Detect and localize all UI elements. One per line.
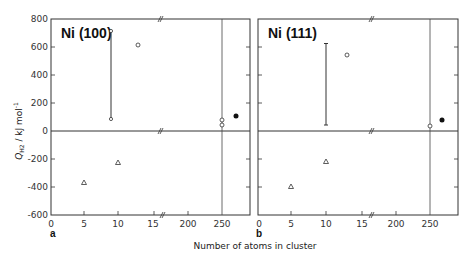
panel-a-data <box>82 29 239 184</box>
svg-text:200: 200 <box>31 98 48 108</box>
panel-b-data <box>289 44 445 189</box>
svg-text:5: 5 <box>288 219 294 229</box>
panel-a-letter: a <box>50 228 56 239</box>
svg-text:200: 200 <box>387 219 404 229</box>
chart-canvas: 800 600 400 200 0 -200 -400 -600 0 5 10 … <box>0 0 472 259</box>
svg-text:0: 0 <box>42 126 48 136</box>
panel-a-y-tick-labels: 800 600 400 200 0 -200 -400 -600 <box>28 14 49 220</box>
panel-a-title: Ni (100) <box>61 25 112 41</box>
x-axis-label: Number of atoms in cluster <box>193 241 316 251</box>
panel-a-x-tick-labels: 0 5 10 15 200 250 <box>48 219 231 229</box>
panel-a-frame <box>51 19 250 215</box>
panel-a-y-ticks <box>51 47 250 187</box>
svg-text:-400: -400 <box>28 182 49 192</box>
svg-text:-600: -600 <box>28 210 49 220</box>
open-circle-marker <box>136 43 140 47</box>
triangle-marker <box>82 180 87 185</box>
svg-text:10: 10 <box>320 219 332 229</box>
svg-text:15: 15 <box>147 219 158 229</box>
svg-text:5: 5 <box>81 219 87 229</box>
range-bar-top-marker <box>109 29 112 32</box>
triangle-marker <box>324 159 329 164</box>
panel-a-x-ticks <box>84 211 188 215</box>
svg-text:600: 600 <box>31 42 48 52</box>
panel-b-letter: b <box>256 228 262 239</box>
svg-text:200: 200 <box>179 219 196 229</box>
svg-text:-200: -200 <box>28 154 49 164</box>
panel-b: 0 5 10 15 200 250 Ni (111) b <box>256 16 458 239</box>
filled-circle-marker <box>234 114 239 119</box>
open-circle-marker <box>220 118 224 122</box>
y-axis-label: QH2 / kJ mol-1 <box>12 102 25 160</box>
svg-text:400: 400 <box>31 70 48 80</box>
svg-text:15: 15 <box>356 219 367 229</box>
open-circle-marker <box>345 53 349 57</box>
panel-a: 800 600 400 200 0 -200 -400 -600 0 5 10 … <box>28 14 250 239</box>
panel-b-title: Ni (111) <box>268 25 317 41</box>
panel-b-frame <box>258 19 458 215</box>
svg-text:250: 250 <box>213 219 230 229</box>
svg-text:250: 250 <box>421 219 438 229</box>
triangle-marker <box>116 160 121 165</box>
panel-b-x-ticks <box>291 211 396 215</box>
filled-circle-marker <box>440 118 445 123</box>
panel-b-axis-break-marks <box>369 16 374 218</box>
svg-text:10: 10 <box>112 219 124 229</box>
svg-text:QH2 / kJ mol-1: QH2 / kJ mol-1 <box>12 102 25 160</box>
range-bar-bottom-marker <box>109 117 112 120</box>
svg-text:800: 800 <box>31 14 48 24</box>
panel-b-y-ticks <box>258 47 458 187</box>
triangle-marker <box>289 184 294 189</box>
panel-b-x-tick-labels: 0 5 10 15 200 250 <box>256 219 439 229</box>
open-circle-marker <box>220 123 224 127</box>
open-circle-marker <box>428 124 432 128</box>
panel-a-axis-break-marks <box>158 16 165 218</box>
